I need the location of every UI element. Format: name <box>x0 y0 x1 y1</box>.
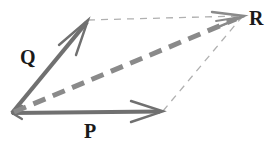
vector-label-r: R <box>249 8 263 28</box>
construction-line-right <box>163 18 241 111</box>
vector-p-shaft <box>12 112 160 114</box>
vector-label-q: Q <box>20 47 36 67</box>
vector-r-shaft <box>14 19 236 112</box>
vector-diagram: Q P R <box>0 0 273 149</box>
construction-line-top <box>88 16 240 20</box>
vector-label-p: P <box>84 121 96 141</box>
vector-r <box>14 12 244 112</box>
vector-diagram-canvas <box>0 0 273 149</box>
